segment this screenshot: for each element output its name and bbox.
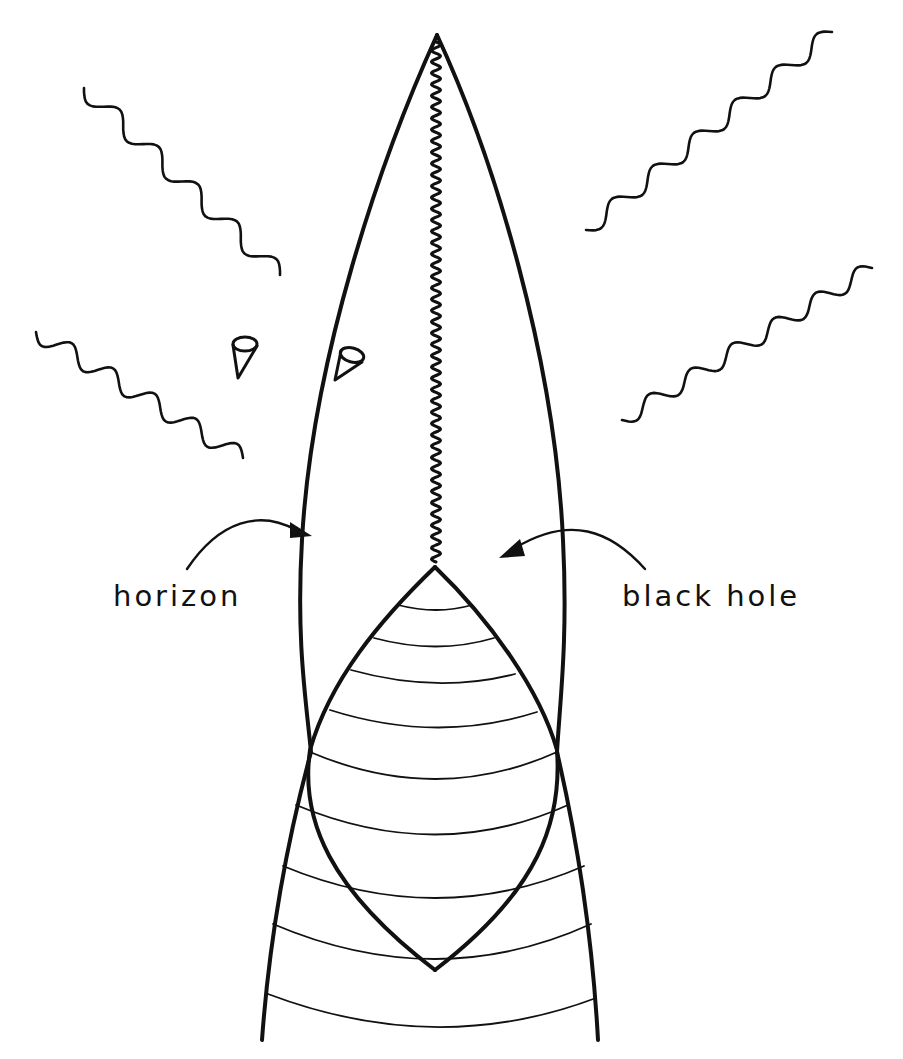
horizon-arrow [187,520,312,569]
collapsing-star-right-edge [435,567,558,970]
time-slices [268,605,596,1027]
radiation-wave-lower-left [36,332,243,458]
black-hole-arrow [499,530,645,569]
collapsing-star-left-edge [308,567,435,970]
black-hole-diagram [0,0,903,1059]
light-cone-horizon [335,345,365,380]
radiation-wave-lower-right [622,266,872,421]
light-cone-left [233,337,257,378]
horizon-label: horizon [113,582,241,611]
radiation-wave-upper-left [84,88,280,275]
black-hole-label: black hole [622,582,800,611]
radiation-wave-upper-right [586,32,832,231]
singularity-zigzag [432,42,441,562]
